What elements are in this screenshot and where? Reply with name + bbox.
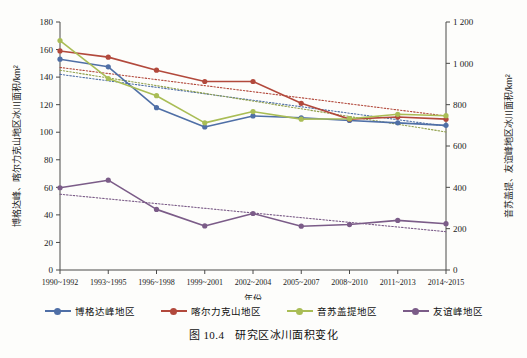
data-point-友谊峰地区[interactable] [347, 222, 352, 227]
data-point-喀尔力克山地区[interactable] [154, 68, 159, 73]
y-axis-tick-label-left: 60 [44, 183, 54, 193]
data-point-喀尔力克山地区[interactable] [250, 79, 255, 84]
x-axis-title: 年份 [244, 293, 262, 300]
x-axis-tick-label: 1990~1992 [42, 278, 78, 287]
y-axis-title-right: 音苏盖提、友谊峰地区冰川面积/km² [503, 74, 514, 218]
data-point-友谊峰地区[interactable] [154, 207, 159, 212]
x-axis-tick-label: 1996~1998 [138, 278, 174, 287]
data-point-音苏盖提地区[interactable] [57, 38, 62, 43]
data-point-音苏盖提地区[interactable] [395, 112, 400, 117]
y-axis-tick-label-left: 80 [44, 155, 54, 165]
caption-number: 图 10.4 [189, 329, 224, 341]
data-point-音苏盖提地区[interactable] [443, 113, 448, 118]
x-axis-tick-label: 2008~2010 [331, 278, 367, 287]
data-point-友谊峰地区[interactable] [443, 221, 448, 226]
x-axis-tick-label: 1999~2001 [187, 278, 223, 287]
y-axis-tick-label-right: 600 [453, 141, 467, 151]
data-point-友谊峰地区[interactable] [299, 224, 304, 229]
x-axis-tick-label: 2011~2013 [380, 278, 416, 287]
legend-item-0[interactable]: 博格达峰地区 [45, 304, 135, 318]
legend-swatch-icon [403, 306, 429, 316]
y-axis-tick-label-left: 140 [40, 72, 54, 82]
legend-label: 友谊峰地区 [433, 304, 483, 318]
y-axis-tick-label-right: 800 [453, 100, 467, 110]
x-axis-tick-label: 1993~1995 [90, 278, 126, 287]
data-point-喀尔力克山地区[interactable] [106, 55, 111, 60]
legend-item-3[interactable]: 友谊峰地区 [403, 304, 483, 318]
legend-label: 博格达峰地区 [75, 304, 135, 318]
legend-swatch-icon [161, 306, 187, 316]
data-point-博格达峰地区[interactable] [57, 57, 62, 62]
x-axis-tick-label: 2005~2007 [283, 278, 319, 287]
y-axis-tick-label-left: 40 [44, 210, 54, 220]
series-line-友谊峰地区 [60, 180, 446, 226]
data-point-博格达峰地区[interactable] [395, 120, 400, 125]
y-axis-tick-label-left: 0 [49, 265, 54, 275]
legend-item-2[interactable]: 音苏盖提地区 [287, 304, 377, 318]
data-point-友谊峰地区[interactable] [395, 218, 400, 223]
data-point-音苏盖提地区[interactable] [347, 116, 352, 121]
y-axis-tick-label-right: 200 [453, 224, 467, 234]
data-point-友谊峰地区[interactable] [106, 178, 111, 183]
data-point-友谊峰地区[interactable] [202, 223, 207, 228]
y-axis-tick-label-right: 0 [453, 265, 458, 275]
legend-label: 音苏盖提地区 [317, 304, 377, 318]
y-axis-title-left: 博格达峰、喀尔力克山地区冰川面积/km² [11, 65, 22, 227]
data-point-音苏盖提地区[interactable] [299, 117, 304, 122]
y-axis-tick-label-left: 160 [40, 45, 54, 55]
y-axis-tick-label-right: 400 [453, 183, 467, 193]
legend-swatch-icon [287, 306, 313, 316]
x-axis-tick-label: 2014~2015 [428, 278, 464, 287]
caption-text: 研究区冰川面积变化 [235, 329, 338, 341]
chart-legend: 博格达峰地区喀尔力克山地区音苏盖提地区友谊峰地区 [0, 300, 527, 322]
y-axis-tick-label-left: 120 [40, 100, 54, 110]
data-point-博格达峰地区[interactable] [443, 123, 448, 128]
y-axis-tick-label-left: 180 [40, 17, 54, 27]
data-point-博格达峰地区[interactable] [154, 105, 159, 110]
data-point-喀尔力克山地区[interactable] [299, 101, 304, 106]
glacier-area-line-chart: 02040608010012014016018002004006008001 0… [0, 0, 527, 300]
legend-swatch-icon [45, 306, 71, 316]
data-point-博格达峰地区[interactable] [106, 64, 111, 69]
y-axis-tick-label-right: 1 000 [453, 59, 474, 69]
data-point-喀尔力克山地区[interactable] [202, 79, 207, 84]
data-point-音苏盖提地区[interactable] [154, 93, 159, 98]
y-axis-tick-label-right: 1 200 [453, 17, 474, 27]
figure-caption: 图 10.4 研究区冰川面积变化 [0, 326, 527, 342]
y-axis-tick-label-left: 20 [44, 238, 54, 248]
data-point-友谊峰地区[interactable] [250, 211, 255, 216]
x-axis-tick-label: 2002~2004 [235, 278, 271, 287]
data-point-友谊峰地区[interactable] [57, 185, 62, 190]
data-point-音苏盖提地区[interactable] [202, 120, 207, 125]
chart-plot-area: 02040608010012014016018002004006008001 0… [0, 0, 527, 300]
data-point-喀尔力克山地区[interactable] [57, 48, 62, 53]
data-point-音苏盖提地区[interactable] [106, 76, 111, 81]
data-point-音苏盖提地区[interactable] [250, 109, 255, 114]
legend-item-1[interactable]: 喀尔力克山地区 [161, 304, 261, 318]
figure-container: 02040608010012014016018002004006008001 0… [0, 0, 527, 358]
y-axis-tick-label-left: 100 [40, 127, 54, 137]
legend-label: 喀尔力克山地区 [191, 304, 261, 318]
